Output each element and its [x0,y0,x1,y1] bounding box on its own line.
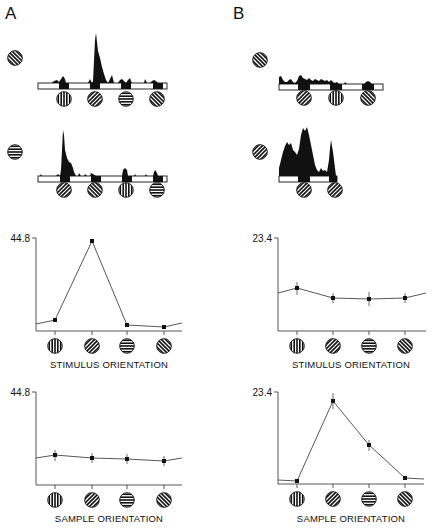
x-tick-grating-diagonal-left-icon [153,489,176,512]
data-point [162,459,166,463]
test-grating-horizontal-icon [118,91,134,107]
y-tick-top: 44.8 [11,387,31,398]
data-point [53,453,57,457]
x-tick-grating-horizontal-icon [119,492,135,508]
sample-grating-diagonal-left-icon [4,47,27,70]
data-point [403,476,407,480]
data-point [403,296,407,300]
data-line [278,401,424,481]
data-point [367,443,371,447]
histogram-a-bottom [38,130,160,176]
y-tick-top: 23.4 [253,233,273,244]
x-tick-grating-vertical-icon [47,492,63,508]
x-tick-grating-vertical-icon [289,338,305,354]
x-axis-title: SAMPLE ORIENTATION [297,513,405,524]
figure-canvas: 44.8 STIMULUS ORIENTATION 23.4 [0,0,432,532]
histogram-b-top [279,75,372,84]
x-tick-grating-vertical-icon [47,338,63,354]
chart-a-stimulus: 44.8 STIMULUS ORIENTATION [11,233,182,370]
sample-grating-horizontal-icon [7,144,23,160]
histogram-a-top [38,33,160,83]
data-line [36,241,182,327]
raster-a-bottom [7,130,167,201]
data-line [36,455,182,461]
raster-a-top [4,33,169,110]
x-tick-grating-diagonal-right-icon [81,335,104,358]
data-point [367,297,371,301]
x-tick-grating-diagonal-right-icon [322,335,345,358]
x-tick-grating-horizontal-icon [361,491,377,507]
x-axis-title: STIMULUS ORIENTATION [292,359,410,370]
chart-b-sample: 23.4 SAMPLE ORIENTATION [253,387,424,524]
data-point [90,456,94,460]
test-grating-horizontal-icon [149,182,165,198]
sample-grating-diagonal-right-icon [249,141,272,164]
x-tick-grating-vertical-icon [289,491,305,507]
sample-grating-diagonal-left-icon [249,49,272,72]
data-point [331,296,335,300]
x-tick-grating-diagonal-right-icon [81,489,104,512]
data-point [295,479,299,483]
x-tick-grating-diagonal-left-icon [153,335,176,358]
trial-timeline-bar [38,83,167,89]
chart-a-sample: 44.8 SAMPLE ORIENTATION [11,387,182,524]
test-grating-vertical-icon [56,91,72,107]
data-point [162,325,166,329]
y-tick-top: 44.8 [11,233,31,244]
x-tick-grating-horizontal-icon [119,338,135,354]
test-grating-diagonal-left-icon [146,88,169,111]
raster-b-bottom [249,127,347,201]
data-point [295,286,299,290]
x-axis-title: SAMPLE ORIENTATION [55,513,163,524]
x-axis-title: STIMULUS ORIENTATION [50,359,168,370]
data-point [90,239,94,243]
data-point [125,457,129,461]
x-tick-grating-horizontal-icon [361,338,377,354]
y-tick-top: 23.4 [253,387,273,398]
x-tick-grating-diagonal-left-icon [394,488,417,511]
data-point [53,318,57,322]
test-grating-diagonal-right-icon [84,88,107,111]
data-point [331,399,335,403]
x-tick-grating-diagonal-right-icon [322,488,345,511]
histogram-b-bottom [279,127,336,176]
chart-b-stimulus: 23.4 STIMULUS ORIENTATION [253,233,426,370]
raster-b-top [249,49,383,110]
trial-timeline-bar [38,176,167,182]
data-point [125,323,129,327]
x-tick-grating-diagonal-left-icon [394,335,417,358]
test-grating-vertical-icon [328,90,344,106]
test-grating-vertical-icon [118,182,134,198]
